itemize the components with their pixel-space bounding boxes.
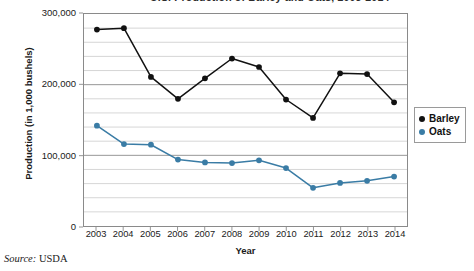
x-axis-tick-labels: 2003200420052006200720082009201020112012… — [83, 230, 408, 244]
y-tick-label-200000: 200,000 — [20, 79, 76, 89]
data-point-barley-2008 — [229, 56, 235, 62]
data-point-oats-2011 — [310, 185, 316, 191]
series-line-oats — [97, 126, 394, 188]
plot-svg — [84, 14, 407, 226]
source-label: Source: — [4, 253, 36, 264]
data-point-barley-2005 — [148, 74, 154, 80]
y-tick-label-0: 0 — [20, 222, 76, 232]
data-point-oats-2004 — [121, 141, 127, 147]
data-series-layer — [94, 25, 397, 190]
x-axis-ticks — [83, 227, 408, 232]
source-note: Source: USDA — [4, 253, 67, 264]
y-tick-label-300000: 300,000 — [20, 8, 76, 18]
data-point-oats-2010 — [283, 165, 289, 171]
data-point-barley-2007 — [202, 75, 208, 81]
data-point-barley-2003 — [94, 27, 100, 33]
data-point-oats-2014 — [391, 174, 397, 180]
data-point-barley-2010 — [283, 97, 289, 103]
y-axis-tick-labels: 0100,000200,000300,000 — [18, 0, 76, 271]
series-line-barley — [97, 28, 394, 118]
legend-marker-oats-icon — [419, 129, 425, 135]
legend-label-barley: Barley — [429, 114, 460, 124]
data-point-oats-2003 — [94, 123, 100, 129]
source-value: USDA — [39, 253, 68, 264]
data-point-oats-2009 — [256, 157, 262, 163]
data-point-oats-2007 — [202, 160, 208, 166]
legend-item-barley[interactable]: Barley — [419, 112, 460, 125]
legend-marker-barley-icon — [419, 116, 425, 122]
data-point-barley-2006 — [175, 96, 181, 102]
x-axis-title: Year — [83, 245, 408, 256]
y-tick-label-100000: 100,000 — [20, 151, 76, 161]
data-point-barley-2004 — [121, 25, 127, 31]
data-point-barley-2009 — [256, 64, 262, 70]
chart-title: U.S. Production of Barley and Oats, 2003… — [150, 0, 450, 3]
data-point-oats-2012 — [337, 180, 343, 186]
data-point-oats-2006 — [175, 157, 181, 163]
data-point-barley-2014 — [391, 99, 397, 105]
data-point-barley-2012 — [337, 70, 343, 76]
chart-legend: BarleyOats — [414, 107, 466, 143]
legend-label-oats: Oats — [429, 127, 451, 137]
y-axis-ticks — [79, 13, 84, 227]
data-point-oats-2005 — [148, 142, 154, 148]
plot-area — [83, 13, 408, 227]
legend-item-oats[interactable]: Oats — [419, 125, 460, 138]
line-chart-figure: U.S. Production of Barley and Oats, 2003… — [0, 0, 474, 271]
data-point-barley-2013 — [364, 71, 370, 77]
data-point-oats-2013 — [364, 178, 370, 184]
data-point-oats-2008 — [229, 160, 235, 166]
data-point-barley-2011 — [310, 115, 316, 121]
gridlines — [84, 28, 407, 212]
